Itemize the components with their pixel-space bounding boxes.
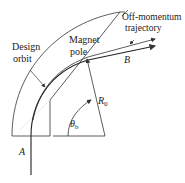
label-angle-sub: b — [75, 123, 79, 131]
label-design-line2: orbit — [13, 53, 32, 64]
radius-line-faint — [20, 100, 50, 130]
off-momentum-tick — [130, 40, 134, 44]
bending-magnet-diagram: Design orbit Magnet pole Off-momentum tr… — [0, 0, 185, 183]
label-radius: R0 — [97, 95, 108, 108]
label-radius-sub: 0 — [104, 100, 108, 108]
magnet-outer-arc — [12, 12, 120, 136]
label-point-b: B — [124, 54, 130, 65]
label-offmomentum-line1: Off-momentum — [122, 12, 182, 22]
label-magnet-line1: Magnet — [69, 34, 100, 45]
design-orbit-leader — [30, 70, 45, 87]
label-magnet-line2: pole — [70, 46, 88, 57]
label-offmomentum-line2: trajectory — [125, 23, 162, 33]
label-point-a: A — [18, 146, 26, 157]
off-momentum-path — [33, 39, 155, 120]
label-design-line1: Design — [12, 41, 40, 52]
label-angle: θb — [70, 118, 79, 131]
magnet-outline — [12, 12, 125, 136]
